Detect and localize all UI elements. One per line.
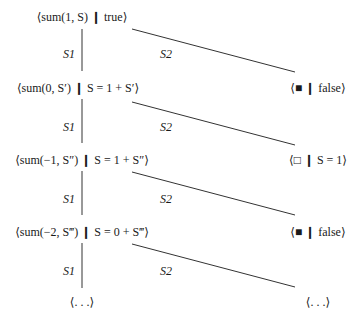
edge-label-s1: S1 [63, 192, 75, 206]
node-success: ⟨□ ❙ S = 1⟩ [289, 153, 347, 167]
edge-s2-0 [132, 29, 295, 72]
node-ellipsis-left: ⟨. . .⟩ [70, 295, 94, 309]
edge-s2-2 [132, 172, 295, 215]
node-sum-0: ⟨sum(0, S′) ❙ S = 1 + S′⟩ [17, 81, 139, 95]
edge-label-s2: S2 [160, 192, 172, 206]
node-ellipsis-right: ⟨. . .⟩ [306, 295, 330, 309]
edge-s2-3 [132, 244, 295, 287]
edge-label-s1: S1 [63, 120, 75, 134]
edge-s2-1 [132, 102, 295, 145]
edge-label-s2: S2 [160, 47, 172, 61]
node-sum-1: ⟨sum(1, S) ❙ true⟩ [37, 10, 128, 24]
node-sum-neg1: ⟨sum(−1, S″) ❙ S = 1 + S″⟩ [15, 153, 149, 167]
edge-label-s2: S2 [160, 264, 172, 278]
node-sum-neg2: ⟨sum(−2, S‴) ❙ S = 0 + S‴⟩ [15, 225, 149, 239]
edge-label-s1: S1 [63, 264, 75, 278]
node-fail-2: ⟨■ ❙ false⟩ [290, 225, 345, 239]
edge-label-s2: S2 [160, 120, 172, 134]
edge-label-s1: S1 [63, 47, 75, 61]
node-fail-1: ⟨■ ❙ false⟩ [290, 81, 345, 95]
